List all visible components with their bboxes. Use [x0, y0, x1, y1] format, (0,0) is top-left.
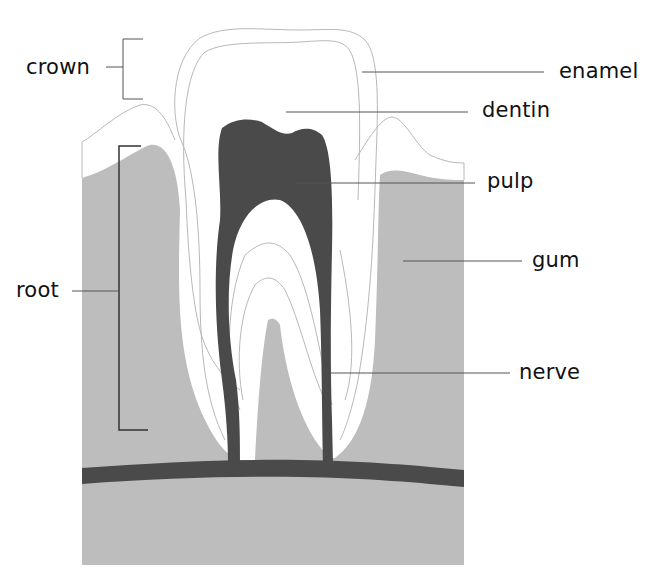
label-dentin: dentin: [482, 100, 550, 121]
left-gum-outline: [82, 105, 175, 142]
label-enamel: enamel: [559, 61, 639, 82]
tooth-diagram: [0, 0, 655, 579]
root-contour-right: [340, 250, 352, 400]
right-gum-outline: [355, 117, 464, 180]
label-nerve: nerve: [519, 362, 580, 383]
label-root: root: [16, 280, 59, 301]
label-crown: crown: [26, 57, 90, 78]
gum-region: [82, 145, 464, 565]
label-pulp: pulp: [487, 171, 534, 192]
label-gum: gum: [532, 250, 580, 271]
crown-bracket: [123, 39, 143, 99]
